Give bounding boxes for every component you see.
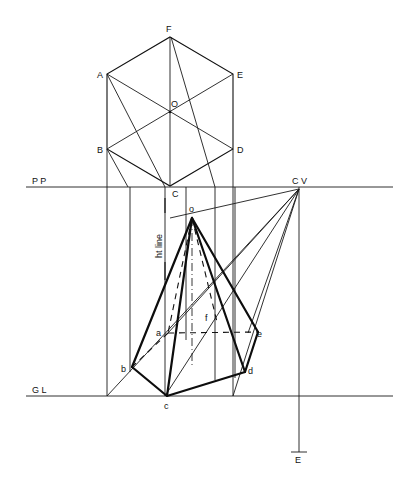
label-E: E (237, 70, 243, 80)
label-b: b (121, 364, 126, 374)
label-D: D (237, 145, 244, 155)
plan-hexagon (107, 37, 233, 187)
label-d: d (248, 366, 253, 376)
label-apex-o: o (189, 204, 194, 214)
label-f: f (205, 313, 208, 323)
eye-line (291, 187, 307, 452)
pyramid-visible-edges (132, 218, 258, 396)
vanishing-lines (107, 189, 299, 396)
label-gl: G L (32, 385, 47, 395)
label-A: A (97, 70, 103, 80)
label-O: O (171, 99, 178, 109)
perspective-drawing: F A E O B D C P P C V E G L ht line (0, 0, 410, 493)
label-eye: E (295, 455, 301, 465)
label-F: F (166, 24, 172, 34)
label-C: C (172, 189, 179, 199)
pyramid-hidden-edges (132, 218, 258, 368)
label-e: e (257, 329, 262, 339)
label-a: a (156, 328, 161, 338)
label-c: c (164, 401, 169, 411)
label-pp: P P (32, 176, 46, 186)
label-cv: C V (292, 176, 307, 186)
label-ht-line: ht line (154, 234, 164, 258)
label-B: B (97, 145, 103, 155)
